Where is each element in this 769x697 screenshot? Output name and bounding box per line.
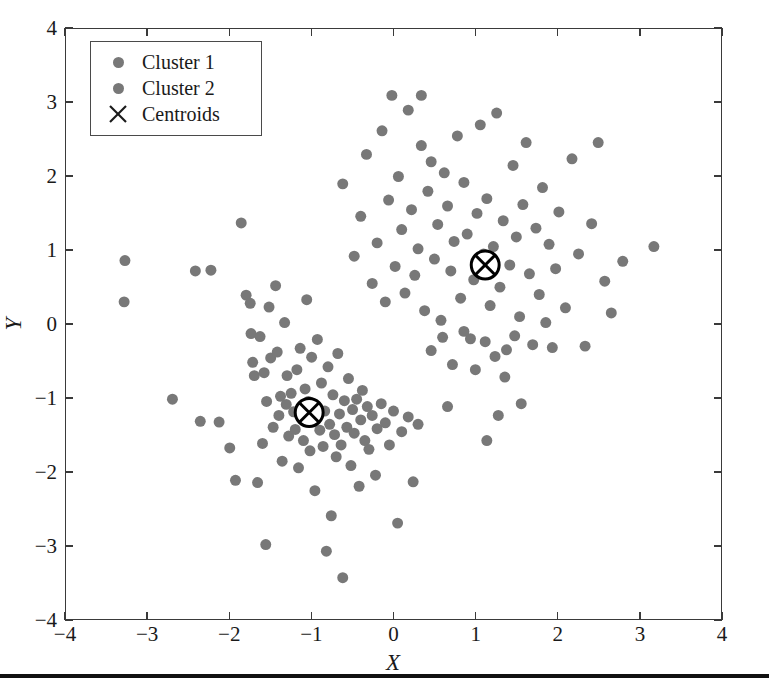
data-point: [508, 160, 519, 171]
data-point: [270, 280, 281, 291]
data-point: [408, 476, 419, 487]
data-point: [357, 385, 368, 396]
data-point: [195, 416, 206, 427]
legend-label-cluster-1: Cluster 1: [135, 52, 215, 72]
y-axis-tick: [714, 323, 722, 324]
x-tick-label: −2: [218, 624, 240, 645]
data-point: [485, 300, 496, 311]
y-axis-tick: [714, 175, 722, 176]
data-point: [279, 317, 290, 328]
data-point: [553, 206, 564, 217]
data-point: [447, 359, 458, 370]
y-axis-tick: [65, 249, 73, 250]
y-axis-tick: [65, 545, 73, 546]
y-axis-tick: [714, 249, 722, 250]
x-axis-tick: [229, 612, 230, 620]
data-point: [255, 331, 266, 342]
y-tick-label: 1: [47, 240, 58, 261]
data-point: [326, 510, 337, 521]
legend-label-centroids: Centroids: [135, 104, 220, 124]
y-axis-tick: [65, 101, 73, 102]
legend-item-centroids[interactable]: Centroids: [101, 101, 251, 127]
data-point: [606, 307, 617, 318]
data-point: [426, 345, 437, 356]
data-point: [462, 229, 473, 240]
legend-box: Cluster 1 Cluster 2 Centroids: [90, 41, 262, 136]
centroid-marker: [471, 251, 499, 279]
legend-item-cluster-1[interactable]: Cluster 1: [101, 49, 251, 75]
data-point: [527, 339, 538, 350]
data-point: [286, 388, 297, 399]
data-point: [190, 265, 201, 276]
legend-item-cluster-2[interactable]: Cluster 2: [101, 75, 251, 101]
data-point: [343, 373, 354, 384]
data-point: [399, 288, 410, 299]
data-point: [437, 332, 448, 343]
data-point: [334, 408, 345, 419]
data-point: [259, 367, 270, 378]
data-point: [516, 398, 527, 409]
data-point: [380, 417, 391, 428]
y-axis-tick: [714, 27, 722, 28]
data-point-group: [119, 90, 660, 583]
data-point: [392, 518, 403, 529]
data-point: [119, 255, 130, 266]
data-point: [367, 410, 378, 421]
data-point: [498, 215, 509, 226]
data-point: [475, 119, 486, 130]
data-point: [249, 370, 260, 381]
data-point: [544, 239, 555, 250]
data-point: [367, 278, 378, 289]
data-point: [436, 315, 447, 326]
data-point: [648, 241, 659, 252]
y-axis-tick: [714, 101, 722, 102]
data-point: [449, 236, 460, 247]
data-point: [550, 263, 561, 274]
dot-icon: [101, 83, 135, 94]
data-point: [439, 167, 450, 178]
data-point: [470, 364, 481, 375]
data-point: [272, 347, 283, 358]
data-point: [494, 282, 505, 293]
x-tick-label: 4: [717, 624, 728, 645]
data-point: [419, 305, 430, 316]
data-point: [316, 378, 327, 389]
y-axis-label: Y: [1, 318, 27, 331]
data-point: [413, 243, 424, 254]
data-point: [403, 411, 414, 422]
data-point: [521, 137, 532, 148]
data-point: [301, 294, 312, 305]
x-axis-tick: [721, 28, 722, 36]
data-point: [390, 261, 401, 272]
data-point: [617, 256, 628, 267]
data-point: [327, 389, 338, 400]
data-point: [349, 428, 360, 439]
data-point: [393, 171, 404, 182]
data-point: [458, 177, 469, 188]
data-point: [376, 398, 387, 409]
data-point: [323, 361, 334, 372]
data-point: [396, 224, 407, 235]
dot-icon: [101, 57, 135, 68]
data-point: [416, 140, 427, 151]
data-point: [355, 414, 366, 425]
data-point: [490, 351, 501, 362]
bottom-divider: [0, 674, 769, 678]
data-point: [245, 298, 256, 309]
data-point: [567, 153, 578, 164]
x-axis-tick: [393, 28, 394, 36]
data-point: [403, 105, 414, 116]
x-axis-tick: [64, 28, 65, 36]
data-point: [332, 348, 343, 359]
y-tick-label: 4: [47, 18, 58, 39]
y-tick-label: 0: [47, 314, 58, 335]
data-point: [324, 419, 335, 430]
data-point: [214, 417, 225, 428]
y-tick-label: −1: [35, 388, 57, 409]
y-axis-tick: [65, 27, 73, 28]
data-point: [372, 237, 383, 248]
data-point: [491, 108, 502, 119]
data-point: [312, 334, 323, 345]
x-axis-tick: [146, 612, 147, 620]
data-point: [337, 572, 348, 583]
